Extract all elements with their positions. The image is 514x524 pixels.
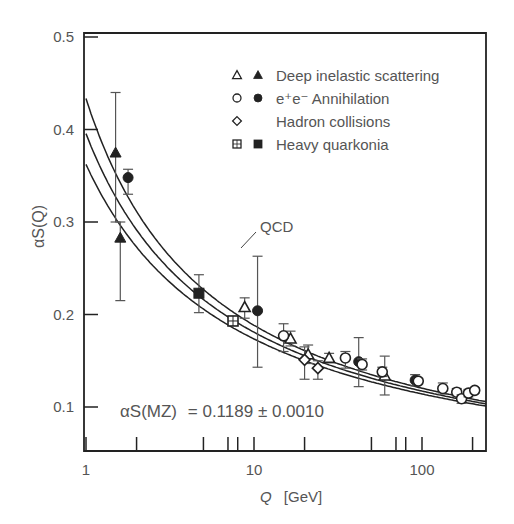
x-axis-var: Q xyxy=(260,488,272,505)
open-circle-marker xyxy=(340,353,350,363)
filled-triangle-marker xyxy=(254,71,263,79)
open-circle-marker xyxy=(357,359,367,369)
alpha-mz-annotation: αS(MZ) = 0.1189 ± 0.0010 xyxy=(120,402,324,421)
open-circle-marker xyxy=(233,94,241,102)
data-point xyxy=(228,316,238,326)
y-axis-label-text: αS(Q) xyxy=(30,205,47,248)
data-point xyxy=(438,383,448,394)
open-circle-marker xyxy=(279,331,289,341)
legend-item: Heavy quarkonia xyxy=(233,136,389,153)
data-point xyxy=(357,359,367,370)
data-point xyxy=(253,256,263,367)
filled-triangle-marker xyxy=(110,147,121,157)
data-point xyxy=(115,222,126,301)
y-axis-label: αS(Q) xyxy=(30,205,47,248)
y-tick-label: 0.4 xyxy=(53,121,74,138)
data-point xyxy=(324,352,335,362)
filled-circle-marker xyxy=(123,173,133,183)
y-tick-label: 0.2 xyxy=(53,306,74,323)
alpha-s-running-chart: 0.50.40.30.20.1110100 Deep inelastic sca… xyxy=(0,0,514,524)
data-point xyxy=(239,298,250,318)
open-circle-marker xyxy=(470,385,480,395)
crossed-square-marker xyxy=(233,140,241,148)
x-tick-label: 100 xyxy=(409,461,434,478)
data-point xyxy=(194,275,204,313)
svg-text:Q [GeV]: Q [GeV] xyxy=(260,488,322,505)
x-axis-unit: [GeV] xyxy=(284,488,322,505)
qcd-curve-line xyxy=(86,164,491,407)
legend-item: e⁺e⁻ Annihilation xyxy=(233,90,389,107)
x-tick-label: 1 xyxy=(82,461,90,478)
filled-square-marker xyxy=(194,288,204,298)
open-diamond-marker xyxy=(233,117,242,126)
y-tick-label: 0.1 xyxy=(53,398,74,415)
crossed-square-marker xyxy=(228,316,238,326)
y-tick-label: 0.5 xyxy=(53,28,74,45)
data-point xyxy=(279,324,289,352)
svg-text:αS(MZ) = 0.1189 ± 0.0010: αS(MZ) = 0.1189 ± 0.0010 xyxy=(120,402,324,421)
filled-square-marker xyxy=(254,140,262,148)
legend-label: e⁺e⁻ Annihilation xyxy=(276,90,389,107)
qcd-curve-line xyxy=(86,134,491,405)
filled-circle-marker xyxy=(254,94,262,102)
x-tick-label: 10 xyxy=(246,461,263,478)
legend-label: Hadron collisions xyxy=(276,113,390,130)
open-circle-marker xyxy=(413,376,423,386)
y-tick-label: 0.3 xyxy=(53,213,74,230)
data-point xyxy=(470,385,480,395)
data-point xyxy=(413,376,423,386)
legend: Deep inelastic scatteringe⁺e⁻ Annihilati… xyxy=(233,67,440,153)
open-circle-marker xyxy=(377,367,387,377)
qcd-label: QCD xyxy=(241,218,294,248)
legend-label: Deep inelastic scattering xyxy=(276,67,439,84)
open-triangle-marker xyxy=(239,302,250,312)
legend-item: Deep inelastic scattering xyxy=(233,67,440,84)
annotation-lhs: αS(MZ) xyxy=(120,402,177,421)
data-point xyxy=(377,367,387,377)
x-axis-label: Q [GeV] xyxy=(260,488,322,505)
filled-triangle-marker xyxy=(115,232,126,242)
legend-label: Heavy quarkonia xyxy=(276,136,389,153)
open-circle-marker xyxy=(438,384,448,394)
open-triangle-marker xyxy=(233,71,242,79)
qcd-curve-label: QCD xyxy=(260,218,294,235)
legend-item: Hadron collisions xyxy=(233,113,391,130)
filled-circle-marker xyxy=(253,306,263,316)
annotation-rhs: = 0.1189 ± 0.0010 xyxy=(188,402,324,421)
open-triangle-marker xyxy=(324,352,335,362)
